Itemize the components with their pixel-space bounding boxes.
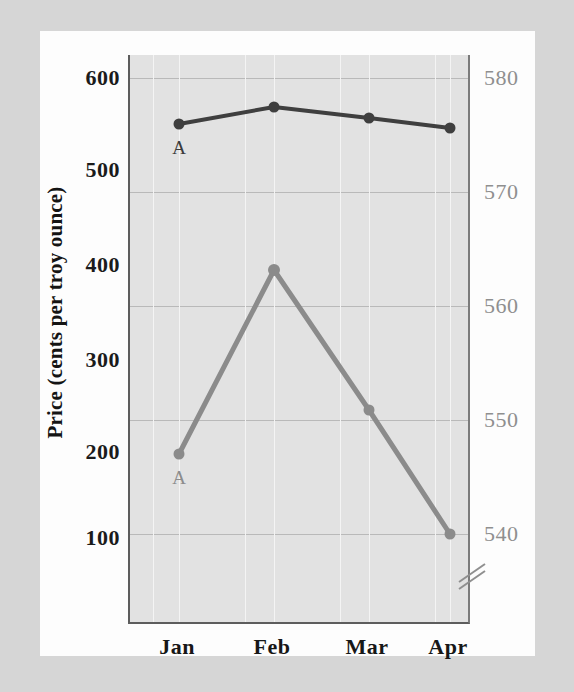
series-gray-point	[174, 449, 185, 460]
series-gray-line	[179, 270, 450, 534]
right-axis-tick: 570	[484, 181, 554, 203]
series-dark-annotation-a: A	[172, 137, 186, 159]
series-gray-point	[268, 264, 280, 276]
line-chart: A A 600 500 400 300 200 100 580 570 560 …	[0, 0, 574, 692]
series-gray-point	[445, 529, 456, 540]
series-gray-point	[364, 405, 375, 416]
left-axis-tick: 100	[56, 527, 120, 549]
x-axis-tick-mar: Mar	[322, 634, 412, 660]
right-axis-tick: 550	[484, 409, 554, 431]
series-dark-point	[174, 119, 185, 130]
series-dark-line	[179, 107, 450, 128]
series-gray-annotation-a: A	[172, 467, 186, 489]
right-axis-tick: 560	[484, 295, 554, 317]
y-axis-title: Price (cents per troy ounce)	[43, 148, 68, 478]
plot-panel: A A	[128, 55, 470, 624]
series-dark-point	[445, 123, 456, 134]
right-axis-tick: 580	[484, 67, 554, 89]
x-axis-tick-jan: Jan	[132, 634, 222, 660]
left-axis-tick: 600	[56, 67, 120, 89]
figure-outer-frame: A A 600 500 400 300 200 100 580 570 560 …	[0, 0, 574, 692]
series-dark-point	[269, 102, 280, 113]
right-axis-tick-labels: 580 570 560 550 540	[484, 0, 564, 692]
axis-break-icon	[455, 556, 489, 596]
x-axis-tick-apr: Apr	[403, 634, 493, 660]
right-axis-tick: 540	[484, 523, 554, 545]
series-dark-point	[364, 113, 375, 124]
x-axis-tick-feb: Feb	[227, 634, 317, 660]
